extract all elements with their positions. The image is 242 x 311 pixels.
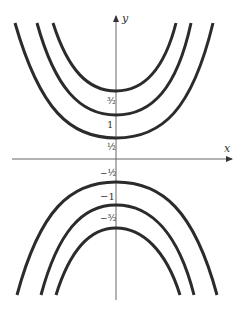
label-neg-three-halves: −³⁄₂ [100, 213, 117, 223]
upper-curve-half [15, 23, 213, 138]
label-half: ½ [107, 142, 116, 152]
label-neg-half: −½ [100, 168, 117, 178]
label-one: 1 [107, 119, 113, 130]
label-three-halves: ³⁄₂ [107, 96, 116, 106]
lower-curve-neg-three-halves [56, 228, 180, 295]
upper-curve-three-halves [53, 23, 176, 91]
lower-curve-neg-one [41, 205, 194, 295]
x-axis-label: x [224, 142, 231, 155]
label-neg-one: −1 [100, 191, 115, 202]
hyperbola-diagram: x y ³⁄₂ 1 ½ −½ −1 −³⁄₂ [0, 0, 242, 311]
y-axis-label: y [121, 12, 129, 25]
